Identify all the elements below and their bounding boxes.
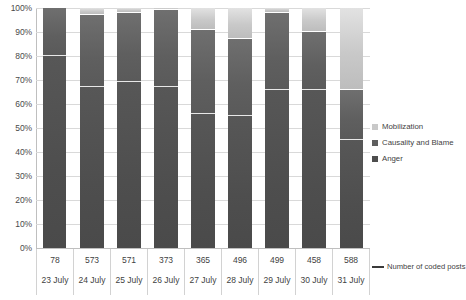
bar-segment[interactable]: [43, 8, 67, 56]
bar-cell: [259, 8, 296, 248]
x-axis-cell: 37326 July: [147, 249, 184, 295]
x-axis-cell: 7823 July: [36, 249, 73, 295]
y-axis-tick-label: 60%: [0, 99, 32, 109]
x-axis-tick-label: 24 July: [79, 274, 106, 286]
stacked-bar[interactable]: [265, 8, 289, 248]
coded-posts-count: 588: [344, 254, 358, 266]
bar-cell: [110, 8, 147, 248]
bar-cell: [333, 8, 370, 248]
x-axis-cell: 57324 July: [73, 249, 110, 295]
bar-segment[interactable]: [154, 10, 178, 87]
bar-segment[interactable]: [228, 116, 252, 248]
x-axis-tick-label: 23 July: [42, 274, 69, 286]
legend-item-label: Anger: [382, 154, 403, 163]
bar-segment[interactable]: [228, 39, 252, 116]
y-axis-tick-label: 80%: [0, 51, 32, 61]
bar-cell: [147, 8, 184, 248]
y-axis-tick-label: 50%: [0, 123, 32, 133]
bar-segment[interactable]: [117, 13, 141, 83]
x-axis-tick-label: 30 July: [301, 274, 328, 286]
coded-posts-count: 78: [50, 254, 59, 266]
bar-segment[interactable]: [154, 87, 178, 248]
coded-posts-count: 365: [196, 254, 210, 266]
bar-cell: [184, 8, 221, 248]
legend-swatch-icon: [372, 140, 378, 146]
x-axis-tick-label: 29 July: [264, 274, 291, 286]
x-axis-tick-label: 26 July: [153, 274, 180, 286]
legend-item[interactable]: Anger: [372, 154, 454, 163]
bar-segment[interactable]: [302, 90, 326, 248]
y-axis-tick-label: 70%: [0, 75, 32, 85]
y-axis-tick-label: 0%: [0, 243, 32, 253]
legend-item[interactable]: Causality and Blame: [372, 138, 454, 147]
bar-segment[interactable]: [265, 90, 289, 248]
stacked-bar[interactable]: [191, 8, 215, 248]
bar-segment[interactable]: [302, 32, 326, 90]
bar-segment[interactable]: [117, 82, 141, 248]
x-axis-cell: 45830 July: [295, 249, 332, 295]
bar-segment[interactable]: [43, 56, 67, 248]
stacked-bar[interactable]: [302, 8, 326, 248]
bar-cell: [73, 8, 110, 248]
bar-segment[interactable]: [80, 8, 104, 15]
x-axis-tick-label: 27 July: [190, 274, 217, 286]
stacked-bar[interactable]: [154, 8, 178, 248]
x-axis-cell: 49628 July: [221, 249, 258, 295]
bar-cell: [36, 8, 73, 248]
y-axis-tick-label: 90%: [0, 27, 32, 37]
x-axis-tick-label: 28 July: [227, 274, 254, 286]
legend-item[interactable]: Mobilization: [372, 122, 454, 131]
bar-segment[interactable]: [340, 8, 364, 90]
bar-cell: [222, 8, 259, 248]
coded-posts-count: 499: [270, 254, 284, 266]
legend-swatch-icon: [372, 156, 378, 162]
x-axis-labels: 7823 July57324 July57125 July37326 July3…: [36, 249, 370, 295]
x-axis-tick-label: 31 July: [338, 274, 365, 286]
x-axis-cell: 58831 July: [332, 249, 370, 295]
bar-series-group: [36, 8, 370, 248]
bar-segment[interactable]: [302, 8, 326, 32]
bar-segment[interactable]: [191, 8, 215, 30]
legend-item-label: Causality and Blame: [382, 138, 454, 147]
bar-segment[interactable]: [80, 15, 104, 87]
y-axis-tick-label: 40%: [0, 147, 32, 157]
bar-segment[interactable]: [191, 30, 215, 114]
stacked-bar[interactable]: [43, 8, 67, 248]
bar-segment[interactable]: [80, 87, 104, 248]
x-axis-cell: 49929 July: [258, 249, 295, 295]
x-axis-cell: 36527 July: [184, 249, 221, 295]
plot-area: [36, 8, 370, 248]
y-axis-tick-label: 30%: [0, 171, 32, 181]
bar-segment[interactable]: [265, 13, 289, 90]
bar-segment[interactable]: [228, 8, 252, 39]
legend-item-label: Mobilization: [382, 122, 423, 131]
leader-line-icon: [372, 266, 384, 268]
bar-segment[interactable]: [340, 90, 364, 140]
chart-legend: MobilizationCausality and BlameAnger: [372, 122, 454, 163]
coded-posts-annotation: Number of coded posts: [372, 262, 466, 271]
legend-swatch-icon: [372, 124, 378, 130]
coded-posts-count: 458: [307, 254, 321, 266]
coded-posts-annotation-label: Number of coded posts: [387, 262, 466, 271]
stacked-bar[interactable]: [117, 8, 141, 248]
bar-segment[interactable]: [191, 114, 215, 248]
coded-posts-count: 571: [122, 254, 136, 266]
x-axis-cell: 57125 July: [110, 249, 147, 295]
x-axis-tick-label: 25 July: [116, 274, 143, 286]
bar-segment[interactable]: [340, 140, 364, 248]
y-axis: 100%90%80%70%60%50%40%30%20%10%0%: [0, 0, 36, 260]
stacked-bar[interactable]: [340, 8, 364, 248]
coded-posts-count: 573: [85, 254, 99, 266]
coded-posts-count: 373: [159, 254, 173, 266]
y-axis-tick-label: 100%: [0, 3, 32, 13]
coded-posts-count: 496: [233, 254, 247, 266]
stacked-bar[interactable]: [228, 8, 252, 248]
y-axis-tick-label: 10%: [0, 219, 32, 229]
y-axis-tick-label: 20%: [0, 195, 32, 205]
bar-cell: [296, 8, 333, 248]
stacked-bar[interactable]: [80, 8, 104, 248]
